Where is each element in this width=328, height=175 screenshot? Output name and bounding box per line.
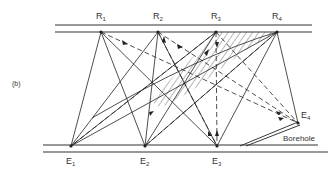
panel-label: (b) [12,80,21,88]
emitter-label-e3: E3 [212,156,222,167]
receiver-label-r2: R2 [153,11,164,22]
receiver-label-r1: R1 [96,11,107,22]
hatched-region [150,32,277,108]
emitter-label-e2: E2 [140,156,150,167]
receiver-label-r4: R4 [272,11,283,22]
top-surface [55,25,312,32]
receiver-label-r3: R3 [211,11,222,22]
borehole-label: Borehole [283,134,316,143]
ray-path-diagram: (b) R1 R2 R3 R4 E1 E2 E3 E4 Borehole [0,0,328,175]
bottom-surface [43,145,328,152]
emitter-label-e4: E4 [301,110,311,121]
emitter-label-e1: E1 [66,156,76,167]
